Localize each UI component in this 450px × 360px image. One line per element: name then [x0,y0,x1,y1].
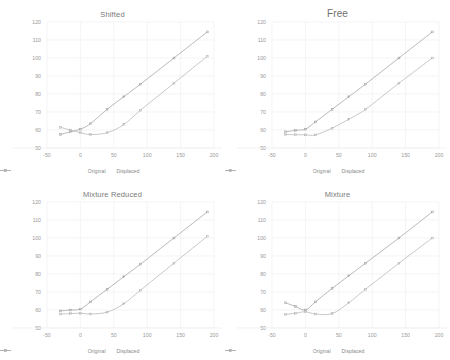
y-tick-label: 70 [260,109,266,115]
chart-legend-free: OriginalDisplaced [225,168,450,174]
y-tick-label: 60 [35,127,41,133]
x-tick-label: -50 [268,152,276,158]
x-tick-label: 100 [143,152,152,158]
legend-label-original: Original [313,348,331,354]
x-tick-label: 150 [176,332,185,338]
series-line-displaced [60,236,207,314]
legend-label-original: Original [313,168,331,174]
x-tick-label: 50 [336,152,342,158]
y-tick-label: 80 [260,271,266,277]
chart-panel-mixture-reduced: 5060708090100110120-50050100150200Mixtur… [0,180,225,360]
y-tick-label: 120 [257,199,266,205]
legend-item-displaced[interactable]: Displaced [115,168,140,174]
y-tick-label: 60 [260,127,266,133]
x-tick-label: -50 [268,332,276,338]
chart-title-free: Free [225,8,450,19]
legend-item-displaced[interactable]: Displaced [340,348,365,354]
x-tick-label: 0 [304,152,307,158]
chart-panel-mixture: 5060708090100110120-50050100150200Mixtur… [225,180,450,360]
x-tick-label: 50 [111,152,117,158]
chart-grid: 5060708090100110120-50050100150200Shifte… [0,0,450,360]
x-tick-label: 200 [210,332,219,338]
y-tick-label: 110 [258,37,266,43]
plot-area-mixture: 5060708090100110120-50050100150200 [225,180,450,360]
legend-item-original[interactable]: Original [86,348,106,354]
y-tick-label: 100 [257,55,266,61]
legend-label-displaced: Displaced [342,168,365,174]
series-line-displaced [285,238,432,315]
series-line-original [60,32,207,135]
x-tick-label: 150 [401,152,410,158]
y-tick-label: 100 [257,235,266,241]
y-tick-label: 80 [35,91,41,97]
y-tick-label: 100 [32,55,41,61]
y-tick-label: 70 [260,289,266,295]
y-tick-label: 110 [258,217,266,223]
x-tick-label: 100 [143,332,152,338]
x-tick-label: 150 [401,332,410,338]
legend-label-displaced: Displaced [342,348,365,354]
legend-label-original: Original [88,168,106,174]
x-tick-label: 50 [111,332,117,338]
x-tick-label: 0 [304,332,307,338]
x-tick-label: 200 [435,152,444,158]
legend-label-displaced: Displaced [117,168,140,174]
series-line-original [285,32,432,132]
y-tick-label: 120 [32,199,41,205]
chart-panel-shifted: 5060708090100110120-50050100150200Shifte… [0,0,225,180]
x-tick-label: 200 [210,152,219,158]
y-tick-label: 120 [32,19,41,25]
legend-item-original[interactable]: Original [311,168,331,174]
plot-area-free: 5060708090100110120-50050100150200 [225,0,450,180]
chart-title-mixture-reduced: Mixture Reduced [0,190,225,199]
y-tick-label: 90 [260,253,266,259]
y-tick-label: 90 [35,253,41,259]
chart-legend-shifted: OriginalDisplaced [0,168,225,174]
y-tick-label: 90 [35,73,41,79]
series-line-displaced [60,56,207,134]
legend-item-displaced[interactable]: Displaced [115,348,140,354]
x-tick-label: 0 [79,152,82,158]
legend-item-original[interactable]: Original [86,168,106,174]
series-line-original [285,212,432,310]
x-tick-label: -50 [43,152,51,158]
legend-item-original[interactable]: Original [311,348,331,354]
y-tick-label: 70 [35,289,41,295]
chart-panel-free: 5060708090100110120-50050100150200FreeOr… [225,0,450,180]
plot-area-mixture-reduced: 5060708090100110120-50050100150200 [0,180,225,360]
plot-area-shifted: 5060708090100110120-50050100150200 [0,0,225,180]
chart-legend-mixture-reduced: OriginalDisplaced [0,348,225,354]
y-tick-label: 60 [260,307,266,313]
x-tick-label: 100 [368,332,377,338]
y-tick-label: 70 [35,109,41,115]
y-tick-label: 110 [33,37,41,43]
y-tick-label: 80 [260,91,266,97]
y-tick-label: 60 [35,307,41,313]
x-tick-label: 100 [368,152,377,158]
y-tick-label: 80 [35,271,41,277]
x-tick-label: 150 [176,152,185,158]
series-line-displaced [285,58,432,135]
x-tick-label: 0 [79,332,82,338]
legend-item-displaced[interactable]: Displaced [340,168,365,174]
y-tick-label: 90 [260,73,266,79]
y-tick-label: 100 [32,235,41,241]
x-tick-label: -50 [43,332,51,338]
chart-title-mixture: Mixture [225,190,450,199]
chart-legend-mixture: OriginalDisplaced [225,348,450,354]
y-tick-label: 120 [257,19,266,25]
y-tick-label: 110 [33,217,41,223]
x-tick-label: 50 [336,332,342,338]
x-tick-label: 200 [435,332,444,338]
legend-label-original: Original [88,348,106,354]
chart-title-shifted: Shifted [0,10,225,19]
legend-label-displaced: Displaced [117,348,140,354]
